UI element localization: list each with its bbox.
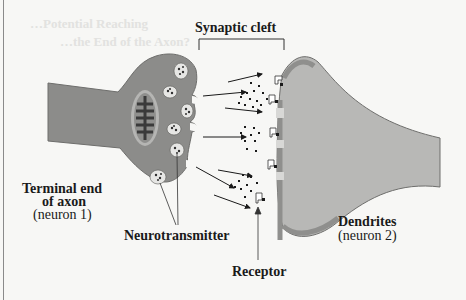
release-arrows xyxy=(196,74,262,208)
synapse-diagram xyxy=(0,0,466,300)
mitochondrion xyxy=(131,90,159,146)
label-dendrites-line2: (neuron 2) xyxy=(338,229,397,243)
dendrite xyxy=(277,57,440,237)
label-dendrites-line1: Dendrites xyxy=(338,215,396,229)
label-synaptic-cleft: Synaptic cleft xyxy=(195,21,276,35)
label-terminal-line3: (neuron 1) xyxy=(33,208,92,222)
cleft-bracket xyxy=(199,39,284,50)
receptor-pointer xyxy=(255,207,261,260)
label-neurotransmitter: Neurotransmitter xyxy=(124,229,230,243)
label-receptor: Receptor xyxy=(232,265,286,279)
neurotransmitter-molecules xyxy=(234,82,268,198)
